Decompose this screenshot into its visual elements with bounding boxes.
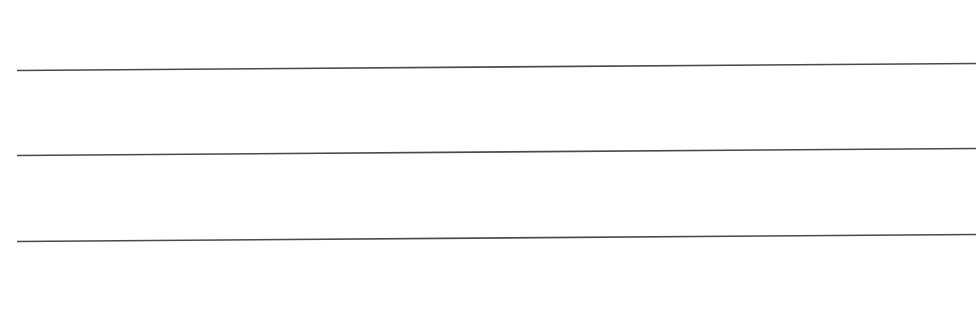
ruled-line-2 (17, 149, 976, 156)
ruled-line-1 (17, 64, 976, 71)
ruled-line-3 (17, 235, 976, 242)
ruled-lines-canvas (0, 0, 976, 316)
